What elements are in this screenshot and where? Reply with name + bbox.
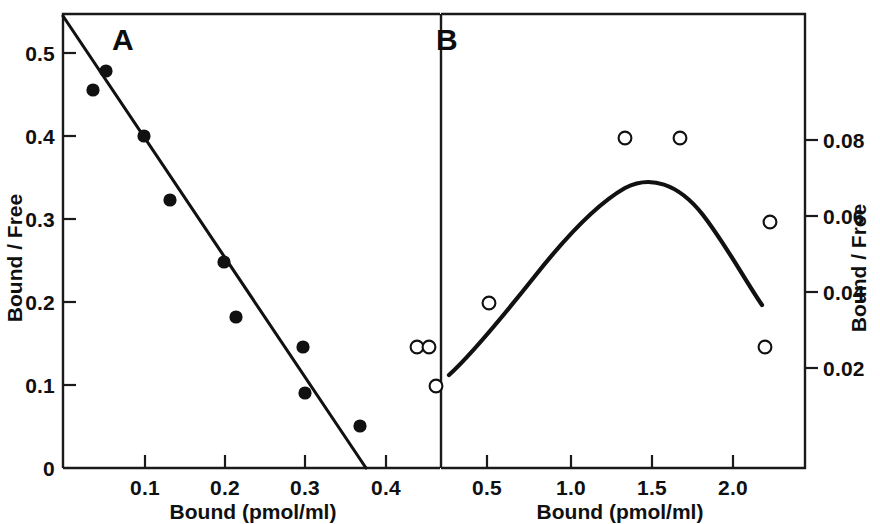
panel-a-x-axis-title: Bound (pmol/ml) <box>170 500 337 523</box>
x-ticklabel-0-1: 0.1 <box>130 476 160 499</box>
data-point <box>411 341 424 354</box>
data-point <box>99 64 112 77</box>
y-ticklabel-0: 0 <box>43 457 55 480</box>
data-point <box>163 193 176 206</box>
x-ticklabel-0-3: 0.3 <box>290 476 320 499</box>
scatchard-figure-svg: 0.5 0.4 0.3 0.2 0.1 0 0.1 0.2 0.3 0.4 <box>0 0 880 524</box>
panel-b-y-ticks <box>805 140 818 368</box>
panel-a-frame <box>63 14 440 468</box>
panel-b: 0.08 0.06 0.04 0.02 0.5 1.0 1.5 2.0 Boun… <box>411 14 870 523</box>
panel-b-fit-curve <box>449 182 762 375</box>
x-ticklabel-0-2: 0.2 <box>210 476 240 499</box>
panel-a-y-ticks <box>63 53 76 385</box>
panel-a-x-ticks <box>145 455 386 468</box>
x-ticklabel-1-0: 1.0 <box>556 476 586 499</box>
panel-a-letter: A <box>112 23 134 56</box>
panel-a-y-ticklabels: 0.5 0.4 0.3 0.2 0.1 0 <box>25 42 55 480</box>
data-point <box>229 310 242 323</box>
y-ticklabel-0-5: 0.5 <box>25 42 55 65</box>
data-point <box>86 83 99 96</box>
panel-b-x-ticks <box>487 455 733 468</box>
y-ticklabel-0-1: 0.1 <box>25 374 55 397</box>
y-ticklabel-0-3: 0.3 <box>25 208 55 231</box>
data-point <box>430 380 443 393</box>
panel-b-y-axis-title: Bound / Free <box>847 204 870 332</box>
panel-a-x-ticklabels: 0.1 0.2 0.3 0.4 <box>130 476 401 499</box>
panel-b-frame <box>441 14 805 468</box>
figure-container: 0.5 0.4 0.3 0.2 0.1 0 0.1 0.2 0.3 0.4 <box>0 0 880 524</box>
x-ticklabel-1-5: 1.5 <box>637 476 667 499</box>
y-ticklabel-0-02: 0.02 <box>823 357 865 380</box>
x-ticklabel-0-5: 0.5 <box>472 476 502 499</box>
data-point <box>137 129 150 142</box>
panel-b-x-axis-title: Bound (pmol/ml) <box>537 500 704 523</box>
data-point <box>296 340 309 353</box>
y-ticklabel-0-4: 0.4 <box>25 125 55 148</box>
panel-a-fit-line <box>63 16 366 468</box>
panel-b-data-points <box>411 132 777 393</box>
data-point <box>483 297 496 310</box>
panel-a-y-axis-title: Bound / Free <box>3 194 26 322</box>
data-point <box>619 132 632 145</box>
x-ticklabel-0-4: 0.4 <box>371 476 401 499</box>
x-ticklabel-2-0: 2.0 <box>718 476 748 499</box>
panel-a-data-points <box>86 64 366 432</box>
panel-a: 0.5 0.4 0.3 0.2 0.1 0 0.1 0.2 0.3 0.4 <box>3 14 440 523</box>
data-point <box>217 255 230 268</box>
panel-b-letter: B <box>436 23 458 56</box>
y-ticklabel-0-2: 0.2 <box>25 291 55 314</box>
data-point <box>298 386 311 399</box>
data-point <box>353 419 366 432</box>
data-point <box>759 341 772 354</box>
panel-b-x-ticklabels: 0.5 1.0 1.5 2.0 <box>472 476 748 499</box>
y-ticklabel-0-08: 0.08 <box>823 129 865 152</box>
data-point <box>423 341 436 354</box>
data-point <box>674 132 687 145</box>
data-point <box>764 216 777 229</box>
